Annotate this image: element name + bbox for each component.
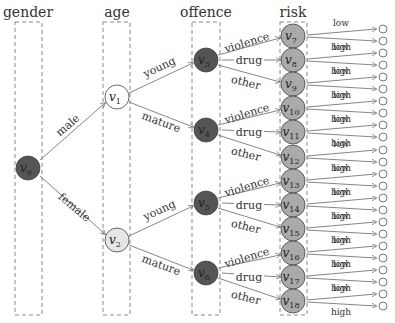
edge-label-low: low	[333, 235, 349, 245]
edge-high	[307, 85, 376, 89]
edge-male	[40, 103, 105, 160]
edge-label-drug: drug	[236, 54, 262, 67]
header-age: age	[104, 4, 130, 20]
header-gender: gender	[3, 4, 54, 20]
leaf-node-low	[379, 25, 387, 33]
leaf-node-high	[379, 61, 387, 69]
edge-label-male: male	[53, 112, 82, 139]
edge-label-violence: violence	[222, 101, 271, 127]
edge-low	[307, 174, 376, 180]
edge-label-low: low	[333, 259, 349, 269]
edge-low	[307, 77, 376, 83]
header-risk: risk	[280, 4, 307, 20]
edge-low	[307, 222, 376, 228]
edge-high	[307, 278, 376, 282]
leaf-node-low	[379, 218, 387, 226]
edge-label-young: young	[140, 54, 177, 81]
leaf-node-low	[379, 49, 387, 57]
edge-label-female: female	[56, 190, 93, 224]
decision-tree-diagram: gender age offence risk malefemaleyoungm…	[0, 0, 395, 323]
edge-label-drug: drug	[236, 199, 262, 212]
age-column-box	[103, 22, 130, 315]
edge-high	[307, 109, 376, 113]
edge-label-low: low	[333, 18, 349, 28]
leaf-node-low	[379, 121, 387, 129]
header-offence: offence	[180, 4, 232, 20]
leaf-node-low	[379, 97, 387, 105]
edge-label-violence: violence	[222, 174, 271, 200]
edge-low	[307, 29, 376, 35]
leaf-node-high	[379, 158, 387, 166]
leaf-node-low	[379, 290, 387, 298]
edge-label-other: other	[230, 217, 263, 237]
edge-low	[307, 53, 376, 59]
edge-high	[307, 254, 376, 258]
leaf-node-low	[379, 242, 387, 250]
leaf-node-low	[379, 146, 387, 154]
edge-low	[307, 125, 376, 131]
leaf-node-high	[379, 109, 387, 117]
leaf-node-low	[379, 194, 387, 202]
edge-high	[307, 158, 376, 162]
edge-low	[307, 198, 376, 204]
edge-label-low: low	[333, 139, 349, 149]
edge-label-drug: drug	[236, 271, 262, 284]
edge-label-low: low	[333, 163, 349, 173]
leaf-node-high	[379, 85, 387, 93]
edge-low	[307, 294, 376, 300]
edge-label-drug: drug	[236, 126, 262, 139]
edge-low	[307, 246, 376, 252]
edge-label-violence: violence	[222, 245, 271, 271]
leaf-node-high	[379, 302, 387, 310]
edge-label-low: low	[333, 211, 349, 221]
edge-label-young: young	[140, 197, 177, 224]
edge-low	[307, 270, 376, 276]
leaf-node-low	[379, 170, 387, 178]
edge-high	[307, 302, 376, 306]
edge-label-low: low	[333, 66, 349, 76]
leaf-node-high	[379, 254, 387, 262]
edge-high	[307, 230, 376, 234]
leaf-node-high	[379, 278, 387, 286]
edge-low	[307, 150, 376, 156]
edge-label-high: high	[331, 307, 351, 317]
edge-label-low: low	[333, 187, 349, 197]
leaf-node-low	[379, 73, 387, 81]
edge-high	[307, 61, 376, 65]
edge-low	[307, 101, 376, 107]
edge-label-other: other	[230, 288, 263, 308]
edge-label-mature: mature	[140, 252, 182, 278]
edge-label-violence: violence	[222, 30, 271, 56]
edge-high	[307, 182, 376, 186]
edge-high	[307, 133, 376, 137]
edge-label-mature: mature	[140, 109, 182, 135]
leaf-node-high	[379, 206, 387, 214]
edge-high	[307, 206, 376, 210]
edge-label-low: low	[333, 90, 349, 100]
edge-label-low: low	[333, 283, 349, 293]
edge-label-low: low	[333, 42, 349, 52]
edge-label-low: low	[333, 114, 349, 124]
leaf-node-high	[379, 37, 387, 45]
leaf-node-low	[379, 266, 387, 274]
leaf-node-high	[379, 133, 387, 141]
leaf-node-high	[379, 230, 387, 238]
edge-high	[307, 37, 376, 41]
edge-label-other: other	[230, 144, 263, 164]
leaf-node-high	[379, 182, 387, 190]
